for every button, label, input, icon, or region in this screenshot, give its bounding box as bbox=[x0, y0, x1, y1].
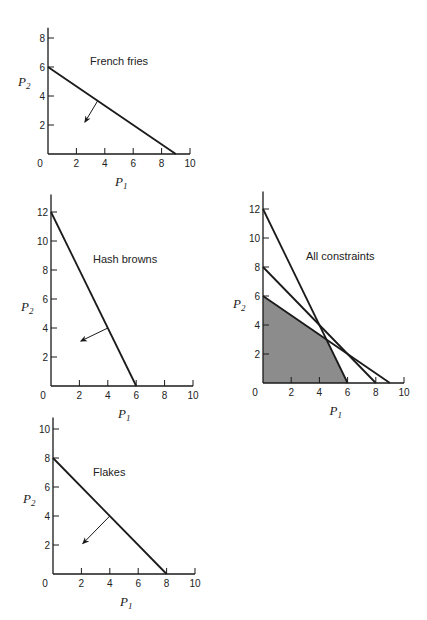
y-tick-label: 8 bbox=[42, 265, 48, 276]
y-tick-label: 4 bbox=[44, 511, 50, 522]
y-tick-label: 6 bbox=[42, 294, 48, 305]
constraint-charts-figure: 02468102468 French fries P1P2 0246810246… bbox=[0, 0, 427, 620]
x-axis-label: P1 bbox=[114, 174, 127, 191]
x-tick-label: 4 bbox=[102, 158, 108, 169]
y-tick-label: 8 bbox=[254, 262, 260, 273]
x-tick-label: 8 bbox=[373, 387, 379, 398]
y-axis-label: P2 bbox=[22, 491, 36, 508]
arrow-icon bbox=[83, 516, 110, 544]
feasible-direction-arrow-icon bbox=[81, 328, 108, 341]
chart-french-fries: 02468102468 French fries P1P2 bbox=[17, 28, 196, 191]
arrow-icon bbox=[81, 328, 108, 341]
y-tick-label: 4 bbox=[254, 320, 260, 331]
constraint-line bbox=[51, 212, 136, 386]
y-tick-label: 2 bbox=[254, 349, 260, 360]
arrow-icon bbox=[85, 101, 98, 122]
axis-labels: P1P2 bbox=[20, 299, 130, 423]
x-tick-label: 8 bbox=[162, 390, 168, 401]
y-tick-label: 10 bbox=[37, 236, 49, 247]
x-tick-label: 10 bbox=[189, 578, 201, 589]
x-axis-label: P1 bbox=[117, 406, 130, 423]
x-tick-label: 2 bbox=[77, 390, 83, 401]
axes: 0246810246810 bbox=[39, 417, 201, 589]
y-axis-label: P2 bbox=[17, 74, 31, 91]
constraint-lines bbox=[51, 212, 136, 386]
constraint-line bbox=[48, 67, 176, 154]
y-tick-label: 12 bbox=[249, 204, 261, 215]
y-tick-label: 6 bbox=[44, 482, 50, 493]
y-tick-label: 4 bbox=[42, 323, 48, 334]
y-tick-label: 10 bbox=[39, 424, 51, 435]
chart-all-constraints: 024681024681012 All constraints P1P2 bbox=[232, 192, 410, 420]
feasible-region bbox=[263, 296, 348, 383]
axis-labels: P1P2 bbox=[22, 491, 132, 611]
y-tick-label: 4 bbox=[39, 91, 45, 102]
y-tick-label: 6 bbox=[39, 62, 45, 73]
feasible-direction-arrow-icon bbox=[83, 516, 110, 544]
y-tick-label: 12 bbox=[37, 207, 49, 218]
feasible-direction-arrow-icon bbox=[85, 101, 98, 122]
x-axis-label: P1 bbox=[329, 403, 342, 420]
chart-title: All constraints bbox=[306, 250, 375, 262]
x-tick-label: 6 bbox=[345, 387, 351, 398]
x-tick-label: 4 bbox=[107, 578, 113, 589]
x-tick-label: 0 bbox=[37, 158, 43, 169]
x-tick-label: 10 bbox=[398, 387, 410, 398]
chart-title: French fries bbox=[90, 55, 149, 67]
x-tick-label: 2 bbox=[79, 578, 85, 589]
y-tick-label: 2 bbox=[39, 120, 45, 131]
axis-labels: P1P2 bbox=[17, 74, 127, 191]
axes: 02468102468 bbox=[37, 28, 196, 169]
x-tick-label: 8 bbox=[164, 578, 170, 589]
x-tick-label: 6 bbox=[135, 578, 141, 589]
chart-title: Hash browns bbox=[93, 253, 158, 265]
y-tick-label: 8 bbox=[39, 33, 45, 44]
y-axis-label: P2 bbox=[20, 299, 34, 316]
x-tick-label: 10 bbox=[187, 390, 199, 401]
x-tick-label: 0 bbox=[252, 387, 258, 398]
x-tick-label: 8 bbox=[159, 158, 165, 169]
x-tick-label: 10 bbox=[184, 158, 196, 169]
x-tick-label: 6 bbox=[130, 158, 136, 169]
x-tick-label: 0 bbox=[42, 578, 48, 589]
chart-hash-browns: 024681024681012 Hash browns P1P2 bbox=[20, 195, 199, 423]
y-tick-label: 6 bbox=[254, 291, 260, 302]
x-tick-label: 2 bbox=[288, 387, 294, 398]
chart-flakes: 0246810246810 Flakes P1P2 bbox=[22, 417, 201, 611]
y-axis-label: P2 bbox=[232, 296, 246, 313]
x-tick-label: 6 bbox=[133, 390, 139, 401]
axes: 024681024681012 bbox=[37, 195, 199, 401]
x-tick-label: 2 bbox=[74, 158, 80, 169]
x-tick-label: 0 bbox=[40, 390, 46, 401]
y-tick-label: 10 bbox=[249, 233, 261, 244]
constraint-lines bbox=[48, 67, 176, 154]
x-tick-label: 4 bbox=[317, 387, 323, 398]
feasible-region-fill bbox=[263, 296, 348, 383]
y-tick-label: 2 bbox=[42, 352, 48, 363]
x-axis-label: P1 bbox=[119, 594, 132, 611]
chart-title: Flakes bbox=[93, 466, 126, 478]
y-tick-label: 2 bbox=[44, 540, 50, 551]
y-tick-label: 8 bbox=[44, 453, 50, 464]
x-tick-label: 4 bbox=[105, 390, 111, 401]
